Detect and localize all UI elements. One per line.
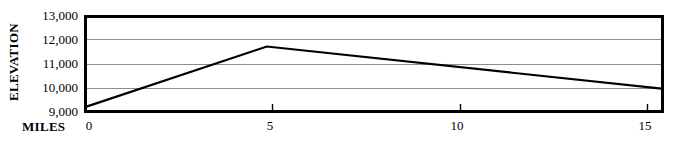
gridlines (85, 40, 664, 89)
elevation-line-series (85, 47, 664, 108)
elevation-profile-chart: ELEVATION MILES 13,000 12,000 11,000 10,… (0, 0, 696, 144)
plot-area (0, 0, 696, 144)
x-tick-marks (273, 104, 648, 111)
